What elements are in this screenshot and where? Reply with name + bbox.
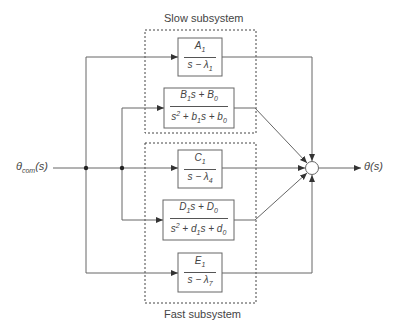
slow-subsystem-label: Slow subsystem xyxy=(164,12,243,24)
summing-junction xyxy=(306,162,319,175)
block-c-tf: C1s − λ4 xyxy=(178,150,222,188)
input-label: θcom(s) xyxy=(16,160,48,174)
block-b-tf: B1s + B0s2 + b1s + b0 xyxy=(164,88,234,128)
fast-subsystem-label: Fast subsystem xyxy=(164,308,241,320)
output-label: θ(s) xyxy=(364,160,383,172)
block-d-tf: D1s + D0s2 + d1s + d0 xyxy=(163,200,234,240)
block-e-tf: E1s − λ7 xyxy=(178,253,222,292)
block-a-tf: A1s − λ1 xyxy=(178,38,222,76)
